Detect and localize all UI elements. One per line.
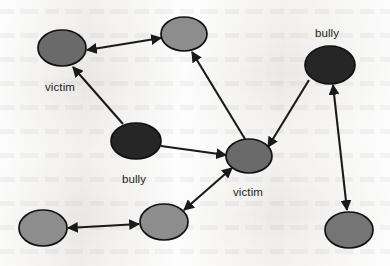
diagram-canvas: victimbullybullyvictim bbox=[0, 0, 390, 266]
node-label-n4: bully bbox=[122, 173, 146, 185]
edge-n3-n5 bbox=[268, 80, 309, 147]
edge-n6-n7 bbox=[68, 224, 139, 228]
edge-n4-n5 bbox=[161, 146, 226, 155]
edge-n4-n1 bbox=[73, 67, 123, 124]
network-graph: victimbullybullyvictim bbox=[0, 0, 390, 266]
edge-n5-n7 bbox=[184, 168, 232, 210]
node-n6-unlabeled[interactable] bbox=[19, 210, 67, 246]
edge-n3-n8 bbox=[333, 85, 347, 210]
node-n3-bully[interactable] bbox=[305, 46, 355, 84]
node-n4-bully[interactable] bbox=[111, 123, 161, 159]
node-label-n1: victim bbox=[45, 81, 75, 93]
node-n2-unlabeled[interactable] bbox=[161, 17, 207, 51]
node-n7-unlabeled[interactable] bbox=[140, 204, 188, 240]
node-label-n3: bully bbox=[315, 27, 339, 39]
edge-n2-n1 bbox=[87, 38, 161, 50]
node-n1-victim[interactable] bbox=[38, 30, 86, 66]
edge-n5-n2 bbox=[192, 52, 245, 139]
node-n5-victim[interactable] bbox=[226, 139, 272, 173]
nodes-layer bbox=[19, 17, 373, 248]
node-label-n5: victim bbox=[233, 186, 263, 198]
node-n8-unlabeled[interactable] bbox=[325, 212, 373, 248]
